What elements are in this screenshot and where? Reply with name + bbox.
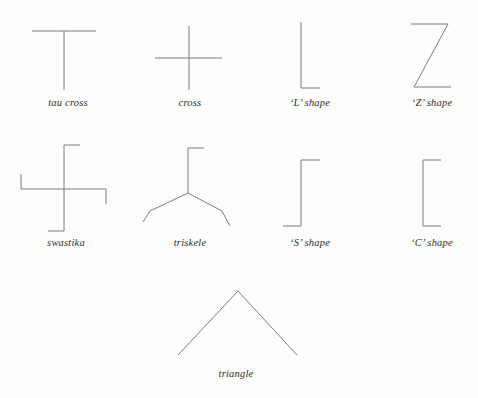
figure-triskele <box>143 148 230 226</box>
figure-z-shape <box>411 24 451 87</box>
caption-triangle: triangle <box>219 369 254 380</box>
figure-c-shape <box>423 160 441 226</box>
triangle-chevron-path <box>178 291 297 355</box>
caption-tau-cross: tau cross <box>48 98 88 109</box>
s-shape-path <box>283 160 320 226</box>
c-shape-path <box>423 160 441 226</box>
caption-l-shape: ‘L’ shape <box>290 98 330 109</box>
shapes-canvas <box>0 0 478 398</box>
caption-cross: cross <box>179 98 202 109</box>
triskele-lower-right-leg <box>188 193 230 226</box>
figure-triangle <box>178 291 297 355</box>
figure-s-shape <box>283 160 320 226</box>
l-shape-path <box>301 22 320 88</box>
figure-cross <box>155 26 222 90</box>
figure-tau-cross <box>32 31 96 90</box>
figure-l-shape <box>301 22 320 88</box>
triskele-lower-left-leg <box>143 193 188 222</box>
caption-swastika: swastika <box>47 238 85 249</box>
z-shape-path <box>411 24 451 87</box>
caption-z-shape: ‘Z’ shape <box>412 98 453 109</box>
caption-s-shape: ‘S’ shape <box>290 238 330 249</box>
triskele-upper-leg <box>188 148 204 193</box>
caption-c-shape: ‘C’ shape <box>411 238 453 249</box>
figure-plate: tau cross cross ‘L’ shape ‘Z’ shape swas… <box>0 0 478 398</box>
figure-swastika <box>21 145 106 231</box>
caption-triskele: triskele <box>174 238 207 249</box>
